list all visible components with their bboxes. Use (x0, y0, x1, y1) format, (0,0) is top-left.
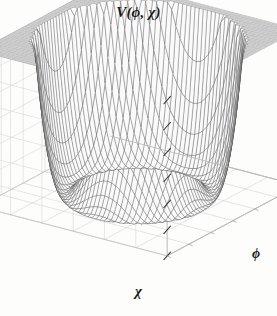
plot-title: V(ϕ, χ) (0, 4, 277, 21)
phi-axis-label: ϕ (252, 246, 260, 262)
chi-axis-label: χ (0, 283, 277, 300)
surface-plot-figure: V(ϕ, χ) ϕ χ (0, 0, 277, 316)
potential-surface-mesh (0, 0, 277, 224)
surface-plot-canvas (0, 0, 277, 316)
